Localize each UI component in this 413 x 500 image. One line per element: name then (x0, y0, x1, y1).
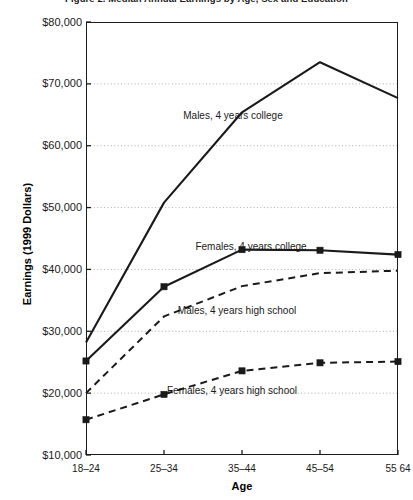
y-axis-tick-label: $10,000 (6, 450, 82, 461)
y-axis-tick-label: $60,000 (6, 140, 82, 151)
series-label-1: Males, 4 years college (183, 110, 283, 121)
x-axis-tick-label: 55 64 (385, 464, 410, 474)
x-axis-tick-label: 25–34 (150, 464, 178, 474)
y-axis-tick-label: $20,000 (6, 388, 82, 399)
chart-container: Figure 2. Median Annual Earnings by Age,… (0, 0, 413, 500)
series-label-3: Males, 4 years high school (178, 305, 296, 316)
y-axis-tick-labels: $10,000$20,000$30,000$40,000$50,000$60,0… (0, 0, 82, 500)
x-axis-title: Age (86, 480, 398, 492)
y-axis-tick-label: $40,000 (6, 264, 82, 275)
y-axis-tick-label: $30,000 (6, 326, 82, 337)
x-axis-tick-label: 35–44 (228, 464, 256, 474)
series-label-4: Females, 4 years high school (167, 385, 297, 396)
y-axis-title: Earnings (1999 Dollars) (21, 169, 33, 319)
y-axis-tick-label: $50,000 (6, 202, 82, 213)
x-axis-tick-label: 18–24 (72, 464, 100, 474)
x-axis-tick-label: 45–54 (306, 464, 334, 474)
y-axis-tick-label: $80,000 (6, 17, 82, 28)
series-label-2: Females, 4 years college (195, 241, 306, 252)
y-axis-tick-label: $70,000 (6, 78, 82, 89)
